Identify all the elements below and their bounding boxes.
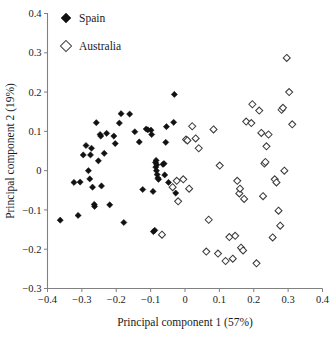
data-point-australia (180, 176, 187, 183)
legend-label-spain: Spain (79, 12, 105, 25)
data-point-australia (169, 184, 176, 191)
data-point-spain (171, 119, 177, 125)
data-point-spain (127, 111, 133, 117)
data-point-spain (149, 131, 155, 137)
data-point-australia (216, 162, 223, 169)
data-point-australia (256, 107, 263, 114)
x-tick-label: 0.2 (247, 294, 260, 305)
data-point-spain (95, 158, 101, 164)
data-point-spain (107, 202, 113, 208)
data-point-australia (215, 250, 222, 257)
data-point-australia (222, 258, 229, 265)
data-point-spain (116, 120, 122, 126)
data-point-australia (275, 207, 282, 214)
y-tick-label: 0.1 (28, 126, 41, 137)
x-tick-label: −0.4 (38, 294, 58, 305)
data-point-spain (162, 172, 168, 178)
data-point-spain (93, 120, 99, 126)
data-point-spain (104, 130, 110, 136)
data-point-spain (77, 179, 83, 185)
x-tick-label: 0.1 (213, 294, 226, 305)
x-tick-label: 0.3 (282, 294, 295, 305)
data-point-spain (163, 139, 169, 145)
data-point-spain (171, 91, 177, 97)
data-point-australia (210, 126, 217, 133)
data-point-spain (132, 129, 138, 135)
y-tick-label: 0 (36, 165, 41, 176)
x-tick-label: −0.2 (107, 294, 126, 305)
data-point-spain (118, 111, 124, 117)
data-point-australia (265, 131, 272, 138)
x-axis-tick-labels: −0.4−0.3−0.2−0.100.10.20.30.4 (38, 294, 330, 305)
data-point-spain (111, 133, 117, 139)
y-tick-label: 0.4 (28, 8, 42, 19)
data-point-spain (83, 142, 89, 148)
data-point-australia (234, 177, 241, 184)
principal-component-scatter-chart: −0.4−0.3−0.2−0.100.10.20.30.4 −0.3−0.2−0… (0, 0, 336, 338)
data-point-spain (165, 179, 171, 185)
data-point-australia (186, 185, 193, 192)
data-point-australia (281, 167, 288, 174)
legend-label-australia: Australia (79, 40, 121, 52)
filled-diamond-icon (61, 13, 71, 23)
y-tick-label: 0.2 (28, 87, 41, 98)
legend: Spain Australia (61, 12, 122, 52)
data-point-australia (283, 54, 290, 61)
data-point-australia (192, 135, 199, 142)
series-spain-points (57, 91, 179, 234)
data-point-australia (269, 234, 276, 241)
y-tick-label: −0.2 (22, 244, 41, 255)
data-point-australia (229, 255, 236, 262)
data-point-spain (98, 183, 104, 189)
data-point-spain (57, 217, 63, 223)
data-point-spain (140, 186, 146, 192)
data-point-australia (175, 198, 182, 205)
y-tick-label: −0.1 (22, 205, 41, 216)
data-point-spain (71, 179, 77, 185)
data-point-australia (195, 145, 202, 152)
x-tick-label: −0.1 (141, 294, 160, 305)
data-point-spain (88, 145, 94, 151)
data-point-spain (87, 176, 93, 182)
data-point-australia (241, 195, 248, 202)
data-point-australia (226, 234, 233, 241)
open-diamond-icon (61, 41, 72, 52)
y-tick-label: −0.3 (22, 283, 41, 294)
legend-item-australia: Australia (61, 40, 122, 52)
data-point-australia (253, 260, 260, 267)
data-point-australia (232, 232, 239, 239)
data-point-australia (205, 216, 212, 223)
x-tick-label: −0.3 (72, 294, 91, 305)
data-point-australia (173, 177, 180, 184)
data-point-spain (121, 219, 127, 225)
data-point-spain (89, 184, 95, 190)
data-point-spain (80, 152, 86, 158)
data-point-spain (112, 140, 118, 146)
x-axis-title: Principal component 1 (57%) (117, 316, 253, 329)
legend-item-spain: Spain (61, 12, 105, 25)
data-point-spain (173, 190, 179, 196)
x-tick-label: 0 (182, 294, 187, 305)
y-axis-tick-labels: −0.3−0.2−0.100.10.20.30.4 (22, 8, 42, 294)
data-point-australia (260, 193, 267, 200)
data-point-australia (203, 248, 210, 255)
data-point-australia (249, 101, 256, 108)
data-point-spain (136, 139, 142, 145)
data-point-australia (189, 123, 196, 130)
series-australia-points (158, 54, 295, 266)
data-point-spain (87, 152, 93, 158)
data-point-australia (263, 143, 270, 150)
axis-lines (47, 13, 323, 289)
data-point-spain (85, 168, 91, 174)
data-point-australia (277, 222, 284, 229)
x-tick-label: 0.4 (316, 294, 330, 305)
data-point-australia (158, 231, 165, 238)
scatter-plot-figure: −0.4−0.3−0.2−0.100.10.20.30.4 −0.3−0.2−0… (0, 0, 336, 338)
data-point-spain (163, 124, 169, 130)
y-axis-title: Principal component 2 (19%) (4, 83, 17, 219)
data-point-australia (289, 121, 296, 128)
data-point-spain (101, 150, 107, 156)
data-point-australia (286, 89, 293, 96)
data-point-spain (75, 212, 81, 218)
y-tick-label: 0.3 (28, 47, 41, 58)
